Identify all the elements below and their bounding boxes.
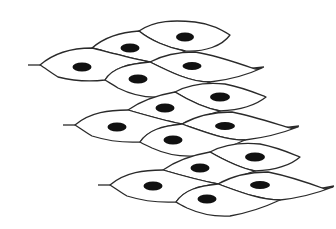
nucleus [156, 104, 175, 113]
spindle-cells-diagram [0, 0, 336, 229]
cell-layer-3 [98, 143, 334, 216]
cell-layers [28, 21, 334, 216]
nucleus [108, 123, 127, 132]
nucleus [144, 182, 163, 191]
nucleus [210, 93, 230, 102]
nucleus [191, 164, 210, 173]
nucleus [73, 63, 92, 72]
nucleus [164, 136, 183, 145]
nucleus [176, 33, 194, 42]
nucleus [121, 44, 140, 53]
nucleus [183, 62, 202, 70]
nucleus [245, 153, 265, 162]
nucleus [129, 75, 148, 84]
nucleus [250, 181, 270, 189]
nucleus [215, 122, 235, 130]
nucleus [198, 195, 217, 204]
